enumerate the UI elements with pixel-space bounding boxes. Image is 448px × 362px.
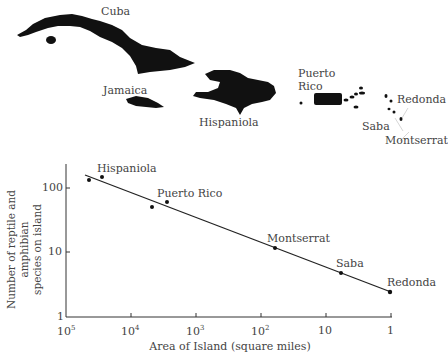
annotation-hispaniola: Hispaniola xyxy=(97,162,157,175)
y-tick-100: 100 xyxy=(42,181,63,194)
x-tick-10: 10 xyxy=(318,324,332,337)
x-tick-1e4: 104 xyxy=(121,324,139,338)
annotation-saba: Saba xyxy=(336,257,364,270)
y-tick-1: 1 xyxy=(57,310,64,323)
y-axis-title: Number of reptile and amphibian species … xyxy=(5,170,44,330)
regression-line xyxy=(85,175,391,292)
x-tick-1: 1 xyxy=(387,324,394,337)
point-saba xyxy=(339,271,343,275)
point-puerto-rico-b xyxy=(165,200,169,204)
point-hispaniola-a xyxy=(87,178,91,182)
point-montserrat xyxy=(273,246,277,250)
x-tick-1e3: 103 xyxy=(186,324,204,338)
point-hispaniola-b xyxy=(100,175,104,179)
x-tick-1e2: 102 xyxy=(251,324,269,338)
x-tick-1e5: 105 xyxy=(57,324,75,338)
annotation-redonda: Redonda xyxy=(387,276,436,289)
annotation-montserrat: Montserrat xyxy=(267,232,330,245)
x-axis-title: Area of Island (square miles) xyxy=(100,340,360,353)
annotation-puerto-rico: Puerto Rico xyxy=(157,187,222,200)
point-puerto-rico-a xyxy=(150,205,154,209)
y-tick-10: 10 xyxy=(48,245,62,258)
point-redonda xyxy=(388,290,392,294)
